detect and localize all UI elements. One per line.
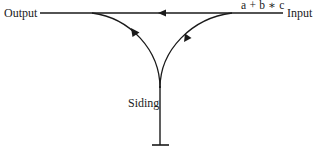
input-to-siding-curve [160,13,232,88]
expression-label: a + b ∗ c [241,0,285,11]
diagram-canvas [0,0,320,151]
output-label: Output [4,7,37,19]
siding-to-output-curve [92,13,160,88]
input-label: Input [287,7,312,19]
siding-label: Siding [128,97,159,109]
input-to-siding-arrow-icon [184,34,192,43]
main-line-arrow-icon [158,10,166,17]
